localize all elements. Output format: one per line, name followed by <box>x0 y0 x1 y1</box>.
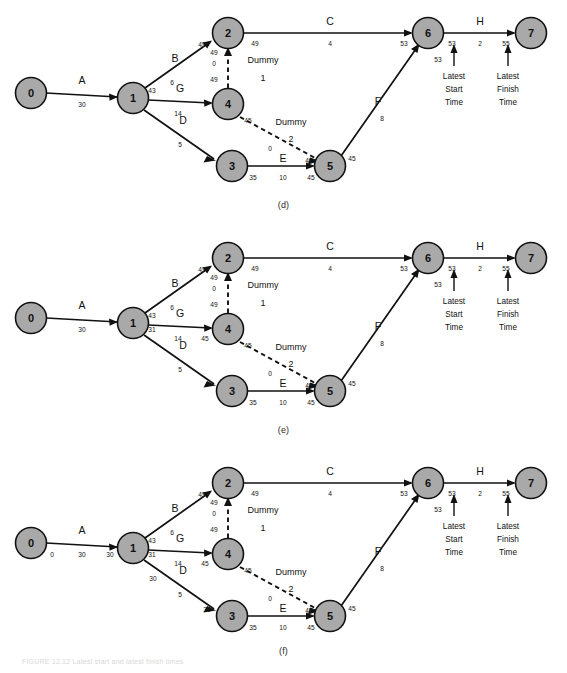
activity-a-name: A <box>78 299 85 311</box>
arrow-a <box>109 94 118 101</box>
dummy-2-duration: 0 <box>268 145 272 152</box>
dummy-1-duration: 0 <box>212 60 216 67</box>
time-f-tail: 45 <box>348 380 356 387</box>
edge-g <box>148 325 211 328</box>
dummy-2-duration: 0 <box>268 370 272 377</box>
node-1-label: 1 <box>130 542 136 554</box>
node-0-label: 0 <box>28 87 34 99</box>
activity-e-name: E <box>279 152 286 164</box>
time-b-head: 49 <box>198 41 206 48</box>
activity-h-duration: 2 <box>478 265 482 272</box>
activity-g-name: G <box>176 82 184 94</box>
figure-caption: FIGURE 12.12 Latest start and latest fin… <box>22 658 184 665</box>
panel-label-f: (f) <box>0 646 567 656</box>
latest-start-time-line-3: Time <box>445 98 463 107</box>
dummy-1-name: Dummy <box>248 55 279 65</box>
dummy-2-name: Dummy <box>276 342 307 352</box>
activity-e-duration: 10 <box>279 174 287 181</box>
time-e-head: 45 <box>307 399 315 406</box>
panel-label-d: (d) <box>0 200 567 210</box>
time-e-tail: 35 <box>249 624 257 631</box>
latest-start-time-line-2: Start <box>445 535 463 544</box>
panel-d: 0 1 2 4 3 5 6 7 A 30 B 6 G 14 D 5 C 4 E … <box>0 0 567 225</box>
activity-b-duration: 6 <box>170 79 174 86</box>
activity-b-name: B <box>171 502 178 514</box>
node-5-label: 5 <box>327 385 333 397</box>
activity-a-name: A <box>78 524 85 536</box>
node-0: 0 <box>16 528 47 559</box>
activity-a-name: A <box>78 74 85 86</box>
time-g-head: 45 <box>244 342 252 349</box>
activity-c-name: C <box>326 465 334 477</box>
time-dummy1-tail: 49 <box>210 526 218 533</box>
time-node1-lower: 31 <box>148 551 156 558</box>
node-4-label: 4 <box>225 323 232 335</box>
activity-b-name: B <box>171 52 178 64</box>
time-c-tail: 49 <box>251 40 259 47</box>
activity-c-name: C <box>326 15 334 27</box>
node-7-label: 7 <box>528 27 534 39</box>
activity-f-duration: 8 <box>380 565 384 572</box>
activity-f-name: F <box>375 545 381 557</box>
time-dummy1-head: 49 <box>210 499 218 506</box>
activity-f-duration: 8 <box>380 115 384 122</box>
time-c-head: 53 <box>400 40 408 47</box>
time-f-head: 53 <box>434 281 442 288</box>
node-0: 0 <box>16 78 47 109</box>
activity-g-name: G <box>176 307 184 319</box>
latest-start-time-line-2: Start <box>445 310 463 319</box>
activity-g-name: G <box>176 532 184 544</box>
node-3: 3 <box>217 376 248 407</box>
edge-a <box>46 93 118 97</box>
time-e-tail: 35 <box>249 174 257 181</box>
network-diagram-e: 0 1 2 4 3 5 6 7 A 30 B 6 G 14 D 5 C 4 E … <box>0 225 567 425</box>
time-b-head: 49 <box>198 491 206 498</box>
time-h-tail: 53 <box>448 265 456 272</box>
dummy-1-number: 1 <box>260 73 265 83</box>
activity-a-duration: 30 <box>78 551 86 558</box>
edge-g <box>148 100 211 103</box>
arrow-h <box>507 255 516 262</box>
dummy-2-number: 2 <box>288 359 293 369</box>
time-h-tail: 53 <box>448 40 456 47</box>
activity-d-name: D <box>179 339 187 351</box>
latest-start-time-line-1: Latest <box>443 522 466 531</box>
activity-c-name: C <box>326 240 334 252</box>
time-dummy1-head: 49 <box>210 49 218 56</box>
node-3-label: 3 <box>229 160 235 172</box>
time-g-head: 45 <box>244 117 252 124</box>
arrow-a <box>109 319 118 326</box>
time-b-tail: 43 <box>148 537 156 544</box>
edge-a <box>46 318 118 322</box>
dummy-2-duration: 0 <box>268 595 272 602</box>
activity-h-name: H <box>476 15 484 27</box>
time-dummy1-tail: 49 <box>210 76 218 83</box>
arrow-g <box>204 325 213 332</box>
time-h-head: 55 <box>502 490 510 497</box>
node-7-label: 7 <box>528 252 534 264</box>
network-diagram-d: 0 1 2 4 3 5 6 7 A 30 B 6 G 14 D 5 C 4 E … <box>0 0 567 200</box>
node-5: 5 <box>315 376 346 407</box>
latest-finish-time-line-3: Time <box>499 98 517 107</box>
time-d-tail: 30 <box>149 575 157 582</box>
activity-d-duration: 5 <box>178 141 182 148</box>
node-2: 2 <box>213 18 244 49</box>
edge-a <box>46 543 118 547</box>
node-5-label: 5 <box>327 160 333 172</box>
time-dummy2-head: 45 <box>305 382 313 389</box>
latest-finish-time-line-3: Time <box>499 548 517 557</box>
latest-finish-time-line-3: Time <box>499 323 517 332</box>
node-4: 4 <box>213 314 244 345</box>
dummy-2-number: 2 <box>288 134 293 144</box>
latest-start-time-line-1: Latest <box>443 297 466 306</box>
arrow-h <box>507 30 516 37</box>
node-7: 7 <box>516 243 547 274</box>
activity-f-duration: 8 <box>380 340 384 347</box>
time-b-tail: 43 <box>148 87 156 94</box>
time-h-head: 55 <box>502 265 510 272</box>
node-5-label: 5 <box>327 610 333 622</box>
dummy-2-name: Dummy <box>276 567 307 577</box>
node-4: 4 <box>213 89 244 120</box>
node-0: 0 <box>16 303 47 334</box>
node-2-label: 2 <box>225 477 231 489</box>
